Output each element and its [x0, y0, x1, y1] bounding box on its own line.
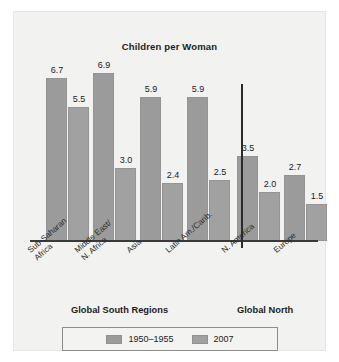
- chart-title: Children per Woman: [14, 41, 325, 52]
- value-label-sub-saharan-1950: 6.7: [43, 65, 71, 75]
- legend-label-1950-1955: 1950–1955: [128, 334, 173, 344]
- chart-legend: 1950–1955 2007: [62, 327, 278, 351]
- value-label-europe-2007: 1.5: [303, 191, 331, 201]
- bar-sub-saharan-1950: [46, 78, 67, 241]
- bar-europe-2007: [306, 204, 327, 241]
- bar-sub-saharan-2007: [68, 107, 89, 241]
- value-label-asia-2007: 2.4: [159, 170, 187, 180]
- bar-latin-america-2007: [209, 180, 230, 241]
- bar-north-america-2007: [259, 192, 280, 241]
- bar-middle-east-1950: [93, 73, 114, 241]
- value-label-sub-saharan-2007: 5.5: [65, 94, 93, 104]
- legend-swatch-2007: [192, 335, 208, 344]
- legend-item-2007: 2007: [192, 334, 234, 344]
- plot-area: 6.7 5.5 6.9 3.0 5.9 2.4 5.9 2.5 3.5 2.0 …: [30, 57, 315, 241]
- legend-label-2007: 2007: [214, 334, 234, 344]
- bar-europe-1950: [284, 175, 305, 241]
- value-label-middle-east-2007: 3.0: [112, 155, 140, 165]
- bar-asia-1950: [140, 97, 161, 241]
- value-label-north-america-2007: 2.0: [256, 179, 284, 189]
- value-label-asia-1950: 5.9: [137, 84, 165, 94]
- bar-asia-2007: [162, 183, 183, 241]
- group-label-global-north: Global North: [237, 305, 293, 315]
- legend-swatch-1950-1955: [106, 335, 122, 344]
- value-label-latin-america-2007: 2.5: [206, 167, 234, 177]
- value-label-latin-america-1950: 5.9: [184, 84, 212, 94]
- bar-middle-east-2007: [115, 168, 136, 241]
- chart-panel: Children per Woman 6.7 5.5 6.9 3.0 5.9 2…: [14, 12, 325, 350]
- global-south-north-divider: [241, 84, 243, 248]
- value-label-north-america-1950: 3.5: [234, 143, 262, 153]
- value-label-middle-east-1950: 6.9: [90, 60, 118, 70]
- legend-item-1950-1955: 1950–1955: [106, 334, 173, 344]
- value-label-europe-1950: 2.7: [281, 162, 309, 172]
- group-label-global-south: Global South Regions: [71, 305, 168, 315]
